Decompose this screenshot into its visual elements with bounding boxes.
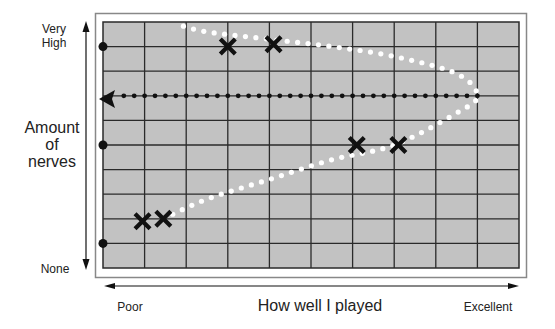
y-axis-title: Amount of nerves bbox=[18, 120, 86, 170]
x-axis-title: How well I played bbox=[235, 296, 405, 315]
x-axis-left-label: Poor bbox=[110, 300, 150, 314]
up-arrowhead-icon bbox=[83, 21, 90, 32]
optimal-nerves-line bbox=[121, 93, 479, 98]
x-axis-right-label: Excellent bbox=[448, 300, 528, 314]
right-arrowhead-icon bbox=[508, 283, 519, 289]
y-title-line3: nerves bbox=[18, 154, 86, 171]
down-arrowhead-icon bbox=[83, 259, 90, 270]
y-axis-top-label: Very High bbox=[28, 22, 80, 51]
left-arrowhead-icon bbox=[104, 283, 115, 289]
y-title-line1: Amount bbox=[18, 120, 86, 137]
high-label: High bbox=[28, 36, 80, 50]
y-title-line2: of bbox=[18, 137, 86, 154]
x-axis-arrow bbox=[104, 283, 519, 289]
very-label: Very bbox=[28, 22, 80, 36]
y-axis-bottom-label: None bbox=[34, 262, 76, 276]
